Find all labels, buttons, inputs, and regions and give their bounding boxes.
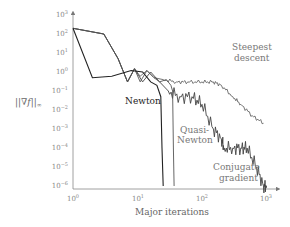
svg-text:10−3: 10−3 xyxy=(52,123,68,133)
svg-text:103: 103 xyxy=(260,193,272,203)
steepest-descent-label-line2: descent xyxy=(234,53,270,63)
x-tick-labels: 100 101 102 103 xyxy=(67,193,272,203)
svg-text:10−1: 10−1 xyxy=(52,85,68,95)
x-axis-label: Major iterations xyxy=(135,207,209,217)
y-axis-label: ||∇f||∞ xyxy=(15,97,42,108)
conjugate-gradient-label-line1: Conjugate xyxy=(213,162,260,172)
chart-svg: 103 102 101 100 10−1 10−2 10−3 10−4 10−5… xyxy=(0,0,290,227)
quasi-newton-label-line2: Newton xyxy=(177,135,213,145)
svg-text:101: 101 xyxy=(132,193,144,203)
conjugate-gradient-label-line2: gradient xyxy=(219,173,258,183)
svg-text:102: 102 xyxy=(196,193,208,203)
svg-text:100: 100 xyxy=(67,193,79,203)
convergence-chart: 103 102 101 100 10−1 10−2 10−3 10−4 10−5… xyxy=(0,0,290,227)
steepest-descent-label-line1: Steepest xyxy=(232,42,272,52)
newton-label: Newton xyxy=(125,96,161,106)
svg-text:100: 100 xyxy=(56,66,68,76)
svg-text:102: 102 xyxy=(56,28,68,38)
newton-line xyxy=(73,28,163,186)
svg-text:101: 101 xyxy=(56,47,68,57)
svg-text:10−2: 10−2 xyxy=(52,104,68,114)
svg-text:10−4: 10−4 xyxy=(52,142,68,152)
quasi-newton-label-line1: Quasi- xyxy=(180,125,209,135)
y-tick-labels: 103 102 101 100 10−1 10−2 10−3 10−4 10−5… xyxy=(52,9,68,190)
svg-text:103: 103 xyxy=(56,9,68,19)
svg-text:10−6: 10−6 xyxy=(52,180,68,190)
svg-text:10−5: 10−5 xyxy=(52,161,68,171)
quasi-newton-line xyxy=(73,28,174,186)
